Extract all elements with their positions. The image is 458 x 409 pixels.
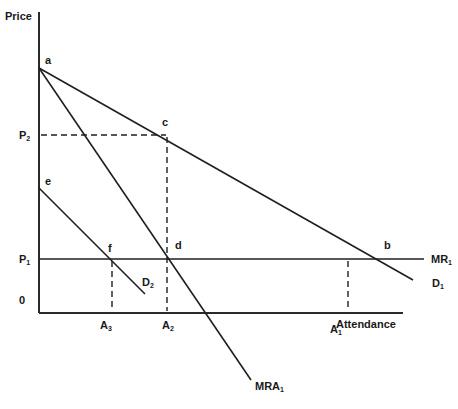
point-f-label: f [108,242,112,254]
p2-label: P2 [19,129,30,142]
d1-demand-curve [39,68,413,280]
x-axis-label: Attendance [336,318,396,330]
a3-label: A3 [100,319,112,332]
point-e-label: e [45,175,51,187]
point-d-label: d [175,239,182,251]
point-a-label: a [45,54,52,66]
a2-label: A2 [162,319,174,332]
mr1-label: MR1 [431,253,452,266]
p1-label: P1 [19,253,30,266]
origin-label: 0 [19,294,25,306]
d2-demand-curve [39,188,145,294]
y-axis-label: Price [5,10,32,22]
d1-label: D1 [432,277,444,290]
economics-diagram: Price Attendance 0 P2 P1 A3 A2 A1 a b c … [0,0,458,409]
point-b-label: b [384,239,391,251]
mra1-curve [39,68,251,380]
point-c-label: c [162,116,168,128]
mra1-label: MRA1 [255,380,284,393]
d2-label: D2 [142,276,154,289]
